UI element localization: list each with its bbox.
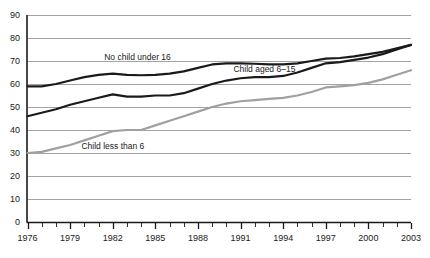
x-axis-tick-label: 1997 (309, 234, 343, 243)
x-axis-tick-label: 2000 (351, 234, 385, 243)
y-axis-tick-label: 60 (0, 80, 20, 89)
y-axis-tick-label: 90 (0, 11, 20, 20)
y-axis-tick-label: 70 (0, 57, 20, 66)
y-axis-tick-label: 80 (0, 34, 20, 43)
x-axis-tick-label: 1985 (138, 234, 172, 243)
line-chart: 9080706050403020100 19761979198219851988… (0, 0, 430, 258)
x-axis-tick-label: 1979 (53, 234, 87, 243)
x-axis-tick-label: 1982 (96, 234, 130, 243)
x-axis-tick-label: 1976 (11, 234, 45, 243)
y-axis-tick-label: 10 (0, 195, 20, 204)
series-label-2: Child less than 6 (81, 142, 144, 151)
series-line-0 (28, 45, 412, 86)
x-axis-tick-label: 1988 (181, 234, 215, 243)
chart-plot-area (0, 0, 430, 258)
y-axis-tick-label: 0 (0, 218, 20, 227)
y-axis-tick-label: 50 (0, 103, 20, 112)
y-axis-tick-label: 40 (0, 126, 20, 135)
series-label-0: No child under 16 (104, 53, 171, 62)
x-axis-tick-label: 1991 (224, 234, 258, 243)
y-axis-tick-label: 30 (0, 149, 20, 158)
series-label-1: Child aged 6–15 (233, 65, 295, 74)
y-axis-tick-label: 20 (0, 172, 20, 181)
x-axis-tick-label: 1994 (266, 234, 300, 243)
x-axis-tick-label: 2003 (394, 234, 428, 243)
